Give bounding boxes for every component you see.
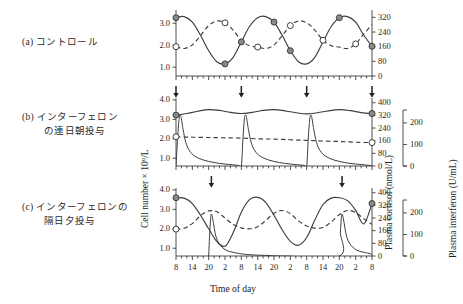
right-tick-label-a-2: 160 — [378, 41, 391, 51]
marker-filled-circle-a-1 — [222, 61, 228, 67]
right-tick-label-c-2: 160 — [378, 225, 391, 235]
right-tick-label-b-3: 240 — [378, 123, 391, 133]
right-tick-label-b-5: 400 — [378, 97, 391, 107]
panel-a — [173, 10, 376, 80]
marker-open-circle-a-11 — [320, 37, 326, 43]
injection-arrow-head-b-2 — [304, 93, 310, 97]
left-tick-label-b-0: 1.0 — [0, 153, 170, 163]
marker-filled-circle-a-2 — [238, 39, 244, 45]
right-tick-label-b-1: 80 — [378, 148, 387, 158]
series-cell-number-a — [176, 16, 372, 64]
marker-filled-circle-c-1 — [369, 201, 375, 207]
injection-arrow-head-b-0 — [173, 93, 179, 97]
interferon-tick-label-c-2: 200 — [410, 207, 423, 217]
marker-open-circle-a-8 — [222, 20, 228, 26]
injection-arrow-head-c-0 — [209, 183, 215, 187]
left-tick-label-c-1: 2.0 — [0, 223, 170, 233]
left-tick-label-b-2: 3.0 — [0, 114, 170, 124]
interferon-tick-label-b-1: 100 — [410, 139, 423, 149]
marker-open-circle-a-7 — [173, 44, 179, 50]
panel-b — [173, 86, 408, 170]
injection-arrow-head-b-1 — [239, 93, 245, 97]
figure-root: (a) コントロール (b) インターフェロン の連日朝投与 (c) インターフ… — [0, 0, 463, 304]
marker-filled-circle-a-5 — [336, 15, 342, 21]
left-tick-label-a-1: 2.0 — [0, 40, 170, 50]
x-axis-title: Time of day — [210, 284, 256, 294]
marker-filled-circle-a-3 — [271, 19, 277, 25]
marker-filled-circle-b-0 — [173, 112, 179, 118]
interferon-tick-label-c-0: 0 — [410, 251, 414, 261]
marker-filled-circle-a-4 — [287, 48, 293, 54]
injection-arrow-head-b-3 — [369, 93, 375, 97]
right-tick-label-a-1: 80 — [378, 56, 387, 66]
right-tick-label-c-0: 0 — [378, 251, 382, 261]
marker-open-circle-c-2 — [173, 226, 179, 232]
right-tick-label-a-3: 240 — [378, 27, 391, 37]
series-plasma-cortisol-c — [176, 210, 372, 229]
panel-c — [173, 176, 408, 260]
x-tick-label-12: 8 — [352, 262, 392, 272]
right-tick-label-b-4: 320 — [378, 110, 391, 120]
marker-filled-circle-c-0 — [173, 195, 179, 201]
left-tick-label-b-1: 2.0 — [0, 133, 170, 143]
left-tick-label-a-0: 1.0 — [0, 62, 170, 72]
left-tick-label-c-2: 3.0 — [0, 204, 170, 214]
right-tick-label-b-2: 160 — [378, 135, 391, 145]
marker-open-circle-b-3 — [369, 140, 375, 146]
series-cell-number-b — [176, 110, 372, 115]
interferon-tick-label-b-0: 0 — [410, 161, 414, 171]
right-tick-label-a-4: 320 — [378, 12, 391, 22]
marker-open-circle-a-10 — [287, 23, 293, 29]
left-tick-label-c-0: 1.0 — [0, 243, 170, 253]
right-tick-label-a-0: 0 — [378, 71, 382, 81]
interferon-tick-label-c-1: 100 — [410, 229, 423, 239]
y-axis-title-plasma-interferon: Plasma interferon (U/mL) — [448, 159, 458, 258]
marker-filled-circle-b-1 — [369, 111, 375, 117]
series-plasma-cortisol-a — [176, 21, 372, 49]
series-plasma-interferon-c — [209, 214, 372, 258]
marker-open-circle-b-2 — [173, 134, 179, 140]
right-tick-label-c-1: 80 — [378, 238, 387, 248]
interferon-axis-spine-b — [403, 110, 407, 166]
series-cell-number-c — [176, 197, 372, 246]
marker-filled-circle-a-0 — [173, 15, 179, 21]
marker-open-circle-a-9 — [255, 44, 261, 50]
right-tick-label-c-4: 320 — [378, 200, 391, 210]
right-tick-label-b-0: 0 — [378, 161, 382, 171]
series-plasma-interferon-b — [176, 115, 372, 168]
marker-filled-circle-a-6 — [369, 43, 375, 49]
left-tick-label-b-3: 4.0 — [0, 94, 170, 104]
interferon-tick-label-b-2: 200 — [410, 117, 423, 127]
left-tick-label-a-2: 3.0 — [0, 18, 170, 28]
interferon-axis-spine-c — [403, 200, 407, 256]
injection-arrow-head-c-1 — [339, 183, 345, 187]
series-plasma-cortisol-b — [176, 137, 372, 143]
left-tick-label-c-3: 4.0 — [0, 184, 170, 194]
right-tick-label-c-3: 240 — [378, 213, 391, 223]
marker-open-circle-a-12 — [353, 41, 359, 47]
right-tick-label-c-5: 400 — [378, 187, 391, 197]
